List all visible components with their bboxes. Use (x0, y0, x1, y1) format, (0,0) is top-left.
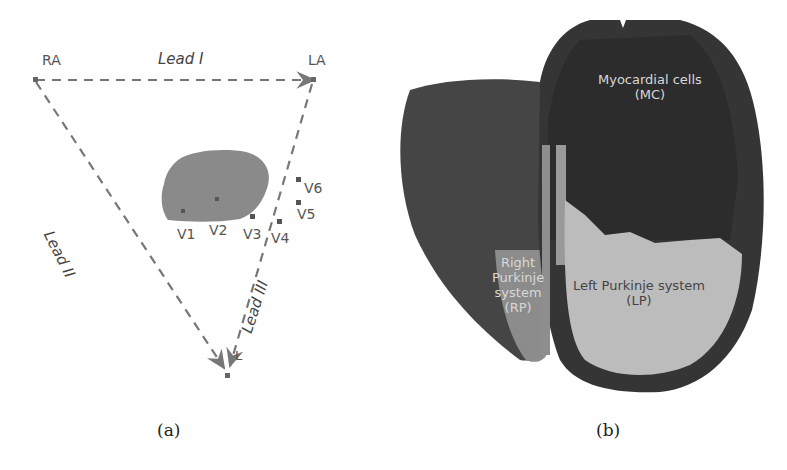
electrode-v1-marker (181, 209, 185, 213)
ll-electrode-marker (225, 373, 230, 378)
electrode-v2-marker (215, 197, 219, 201)
mc-name: Myocardial cells (598, 72, 702, 87)
v4-label: V4 (271, 230, 289, 246)
lead-i-label: Lead I (158, 50, 204, 68)
ll-label: L (235, 348, 242, 363)
rp-line3: system (492, 285, 544, 300)
rp-abbr: (RP) (492, 300, 544, 315)
lead-ii-arrow (36, 82, 224, 368)
lp-abbr: (LP) (573, 293, 705, 308)
septum-purkinje-strip (542, 145, 550, 355)
lp-name: Left Purkinje system (573, 278, 705, 293)
caption-b: (b) (596, 420, 620, 440)
rp-line1: Right (492, 255, 544, 270)
v1-label: V1 (177, 226, 195, 242)
v5-label: V5 (297, 206, 315, 222)
ra-electrode-marker (33, 77, 38, 82)
septum-purkinje-strip-2 (556, 145, 566, 265)
la-label: LA (308, 52, 326, 68)
v2-label: V2 (209, 222, 227, 238)
caption-a: (a) (157, 420, 180, 440)
mc-abbr: (MC) (598, 87, 702, 102)
rp-line2: Purkinje (492, 270, 544, 285)
electrode-v3-marker (250, 214, 255, 219)
mc-label: Myocardial cells (MC) (598, 72, 702, 102)
electrode-v4-marker (277, 219, 282, 224)
lp-label: Left Purkinje system (LP) (573, 278, 705, 308)
ra-label: RA (42, 52, 61, 68)
v6-label: V6 (304, 180, 322, 196)
la-electrode-marker (311, 77, 316, 82)
panel-a-einthoven-triangle: RA LA L Lead I Lead II Lead III V1 V2 V3… (0, 0, 380, 470)
electrode-v6-marker (296, 177, 301, 182)
heart-cross-section (380, 0, 787, 470)
panel-b-heart-model: Myocardial cells (MC) Right Purkinje sys… (380, 0, 787, 470)
electrode-v5-marker (296, 200, 301, 205)
heart-outline-icon (162, 150, 269, 222)
rp-label: Right Purkinje system (RP) (492, 255, 544, 315)
v3-label: V3 (243, 226, 261, 242)
